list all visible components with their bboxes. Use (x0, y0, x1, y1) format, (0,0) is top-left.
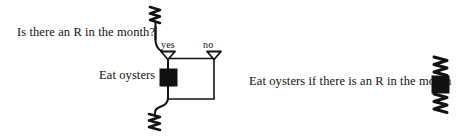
action-label-eat-oysters: Eat oysters (99, 69, 155, 82)
branch-label-no: no (203, 40, 213, 50)
diagram-canvas (0, 0, 475, 137)
decision-question-label: Is there an R in the month? (17, 26, 155, 39)
summary-upper-squiggle-icon (434, 57, 447, 76)
summary-lower-squiggle-icon (434, 94, 447, 113)
figure-root: Is there an R in the month? yes no Eat o… (0, 0, 475, 137)
left-diagram (149, 7, 221, 130)
summary-statement-label: Eat oysters if there is an R in the mont… (249, 75, 451, 88)
eat-oysters-action-square (160, 69, 177, 86)
yes-path-lower (155, 86, 168, 114)
branch-label-yes: yes (161, 40, 175, 50)
entry-squiggle-icon (150, 7, 160, 23)
exit-squiggle-icon (149, 114, 160, 130)
